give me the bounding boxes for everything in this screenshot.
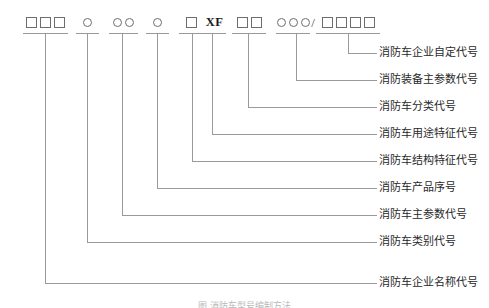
label-enterprise-custom: 消防车企业自定代号 [379, 47, 478, 58]
leader-classification [249, 34, 378, 108]
box-glyph [186, 17, 197, 28]
label-main-parameter: 消防车主参数代号 [379, 209, 467, 220]
symbol-group-classification [232, 13, 266, 31]
leader-equipment-main-parameter [297, 34, 378, 81]
separator-slash-group: / [308, 13, 318, 31]
fire-truck-model-code-diagram: XF / 消防车企业自定代号 消防装备主参数代号 消防车分类代号 消防车用途特征… [0, 0, 489, 308]
label-structure-feature: 消防车结构特征代号 [379, 155, 478, 166]
symbol-row: XF / [0, 13, 489, 33]
symbol-group-main-parameter [109, 13, 138, 31]
box-glyph [237, 17, 248, 28]
box-glyph [364, 17, 375, 28]
box-glyph [336, 17, 347, 28]
leader-enterprise-name [46, 34, 378, 284]
leader-usage-feature [213, 34, 378, 135]
symbol-group-usage-feature: XF [203, 13, 226, 31]
circle-glyph [277, 18, 286, 27]
label-enterprise-name: 消防车企业名称代号 [379, 277, 478, 288]
circle-glyph [153, 18, 162, 27]
box-glyph [26, 17, 37, 28]
symbol-group-product-serial [146, 13, 169, 31]
symbol-group-vehicle-category [76, 13, 99, 31]
figure-caption: 图 消防车型号编制方法 [0, 299, 489, 308]
box-glyph [251, 17, 262, 28]
box-glyph [350, 17, 361, 28]
box-glyph [322, 17, 333, 28]
leader-vehicle-category [88, 34, 378, 243]
circle-glyph [289, 18, 298, 27]
label-equipment-main-parameter: 消防装备主参数代号 [379, 74, 478, 85]
circle-glyph [125, 18, 134, 27]
label-vehicle-category: 消防车类别代号 [379, 236, 456, 247]
symbol-group-enterprise-name [23, 13, 68, 31]
box-glyph [54, 17, 65, 28]
circle-glyph [113, 18, 122, 27]
label-usage-feature: 消防车用途特征代号 [379, 128, 478, 139]
symbol-group-structure-feature [179, 13, 203, 31]
circle-glyph [83, 18, 92, 27]
symbol-group-equipment-main-parameter [276, 13, 310, 31]
symbol-group-enterprise-custom [318, 13, 378, 31]
leader-product-serial [158, 34, 378, 189]
leader-enterprise-custom [349, 34, 378, 54]
usage-feature-literal: XF [206, 16, 223, 29]
label-product-serial: 消防车产品序号 [379, 182, 456, 193]
box-glyph [40, 17, 51, 28]
label-classification: 消防车分类代号 [379, 101, 456, 112]
leader-structure-feature [193, 34, 378, 162]
slash-separator: / [310, 16, 316, 29]
